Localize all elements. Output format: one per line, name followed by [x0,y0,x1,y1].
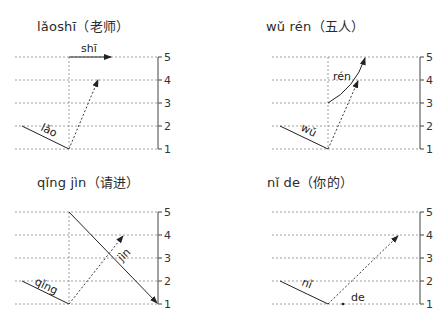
syllable-de: de [351,291,365,304]
svg-text:2: 2 [426,275,433,288]
svg-text:2: 2 [164,120,171,133]
tone-diagram-nide: nǐ de（你的） 5 4 3 2 1 nǐ de [220,156,441,313]
syllable-ni: nǐ [300,276,315,292]
syllable-qing: qǐng [33,275,60,297]
neutral-tone-dot [342,303,345,306]
svg-text:5: 5 [164,206,171,219]
svg-text:4: 4 [164,229,171,242]
dashed-arrow-original-tone [328,81,358,149]
svg-text:1: 1 [426,143,433,156]
svg-text:1: 1 [426,298,433,311]
svg-text:1: 1 [164,298,171,311]
svg-text:3: 3 [426,97,433,110]
tone-chart: 5 4 3 2 1 lǎo shī [0,0,220,156]
svg-text:4: 4 [426,229,433,242]
dashed-arrow-original-tone [69,80,98,149]
grid-lines [15,57,158,149]
dashed-arrow-original-tone [69,236,123,304]
tone-chart: 5 4 3 2 1 qǐng jìn [0,156,220,313]
svg-text:5: 5 [426,51,433,64]
svg-text:4: 4 [164,74,171,87]
syllable-ren: rén [333,70,351,83]
svg-text:5: 5 [426,206,433,219]
pitch-axis [158,57,162,149]
svg-text:2: 2 [426,120,433,133]
syllable-shi: shī [81,42,98,55]
svg-text:3: 3 [426,252,433,265]
tone-chart: 5 4 3 2 1 nǐ de [220,156,441,313]
tone-arrow-jin [69,212,157,303]
svg-text:2: 2 [164,275,171,288]
syllable-lao: lǎo [39,121,60,140]
tone-chart: 5 4 3 2 1 wǔ rén [220,0,441,156]
svg-text:3: 3 [164,252,171,265]
svg-text:4: 4 [426,74,433,87]
svg-text:3: 3 [164,97,171,110]
tone-diagram-wuren: wǔ rén（五人） 5 4 3 2 1 wǔ rén [220,0,441,156]
tone-diagram-qingjin: qǐng jìn（请进） 5 4 3 2 1 qǐng jìn [0,156,220,313]
svg-text:1: 1 [164,143,171,156]
tone-diagram-laoshi: lǎoshī（老师） 5 4 3 2 1 lǎo shī [0,0,220,156]
svg-text:5: 5 [164,51,171,64]
